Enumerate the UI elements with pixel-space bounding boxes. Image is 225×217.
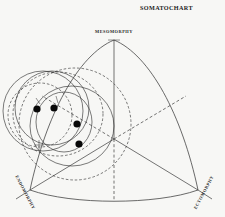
data-point[interactable]: [73, 120, 80, 127]
data-point[interactable]: [33, 105, 40, 112]
data-point[interactable]: [50, 104, 57, 111]
chart-title: SOMATOCHART: [140, 4, 193, 11]
somatochart-figure: SOMATOCHART: [0, 0, 225, 217]
somatochart-svg: SOMATOCHART: [0, 0, 225, 217]
data-point[interactable]: [75, 140, 82, 147]
mesomorphy-axis-label: MESOMORPHY: [95, 29, 133, 34]
